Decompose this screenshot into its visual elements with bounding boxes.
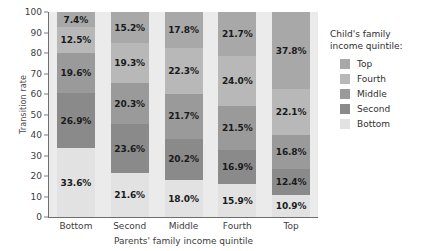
bar-segment-second: 12.4%: [272, 169, 310, 194]
y-axis-tick-label: 60: [20, 89, 42, 99]
legend-label: Bottom: [357, 119, 390, 129]
segment-value-label: 22.3%: [168, 66, 199, 76]
legend-swatch-middle: [340, 89, 350, 99]
y-axis-tick-label: 100: [20, 7, 42, 17]
y-axis-tick-label: 20: [20, 171, 42, 181]
segment-value-label: 19.3%: [114, 58, 145, 68]
y-axis-tick-label: 70: [20, 69, 42, 79]
bar-segment-bottom: 33.6%: [57, 148, 95, 217]
y-axis: 0102030405060708090100: [22, 12, 48, 217]
bar-segment-second: 26.9%: [57, 93, 95, 148]
segment-value-label: 21.7%: [168, 111, 199, 121]
plot-area: 7.4%12.5%19.6%26.9%33.6%15.2%19.3%20.3%2…: [49, 12, 318, 217]
bar-top: 37.8%22.1%16.8%12.4%10.9%: [272, 12, 310, 217]
segment-value-label: 10.9%: [276, 201, 307, 211]
y-axis-tick-label: 40: [20, 130, 42, 140]
legend-label: Top: [357, 59, 372, 69]
bar-segment-middle: 16.8%: [272, 135, 310, 169]
bar-segment-fourth: 19.3%: [111, 43, 149, 83]
bar-segment-bottom: 21.6%: [111, 173, 149, 217]
x-axis-tick-label-fourth: Fourth: [223, 221, 252, 231]
bar-segment-fourth: 12.5%: [57, 27, 95, 53]
legend-item-fourth: Fourth: [330, 74, 420, 84]
bar-segment-middle: 21.5%: [218, 106, 256, 150]
segment-value-label: 21.5%: [222, 123, 253, 133]
segment-value-label: 17.8%: [168, 25, 199, 35]
segment-value-label: 23.6%: [114, 144, 145, 154]
x-axis-line: [48, 217, 318, 218]
bar-fourth: 21.7%24.0%21.5%16.9%15.9%: [218, 12, 256, 217]
segment-value-label: 20.2%: [168, 154, 199, 164]
x-axis-title: Parents' family income quintile: [49, 236, 318, 246]
x-axis-tick-label-second: Second: [113, 221, 146, 231]
y-axis-tick-label: 10: [20, 192, 42, 202]
legend-item-second: Second: [330, 104, 420, 114]
legend-label: Middle: [357, 89, 387, 99]
segment-value-label: 24.0%: [222, 76, 253, 86]
y-axis-tick-label: 30: [20, 151, 42, 161]
legend-item-top: Top: [330, 59, 420, 69]
bar-segment-top: 15.2%: [111, 12, 149, 43]
legend-item-bottom: Bottom: [330, 119, 420, 129]
segment-value-label: 15.9%: [222, 196, 253, 206]
bar-segment-top: 7.4%: [57, 12, 95, 27]
segment-value-label: 7.4%: [64, 15, 89, 25]
legend-swatch-bottom: [340, 119, 350, 129]
segment-value-label: 12.5%: [61, 35, 92, 45]
bar-segment-middle: 19.6%: [57, 53, 95, 93]
x-axis-tick-labels: BottomSecondMiddleFourthTop: [49, 221, 318, 235]
legend-swatch-fourth: [340, 74, 350, 84]
x-axis-tick-label-top: Top: [284, 221, 299, 231]
segment-value-label: 21.7%: [222, 29, 253, 39]
segment-value-label: 16.9%: [222, 162, 253, 172]
segment-value-label: 16.8%: [276, 147, 307, 157]
bar-segment-fourth: 22.1%: [272, 89, 310, 134]
bar-segment-second: 20.2%: [165, 139, 203, 180]
segment-value-label: 19.6%: [61, 68, 92, 78]
segment-value-label: 18.0%: [168, 194, 199, 204]
bar-segment-fourth: 24.0%: [218, 56, 256, 105]
bar-segment-top: 17.8%: [165, 12, 203, 48]
legend-title-line-2: income quintile:: [330, 40, 420, 52]
y-axis-tick-label: 0: [20, 212, 42, 222]
y-axis-tick-label: 90: [20, 28, 42, 38]
bar-segment-bottom: 10.9%: [272, 195, 310, 217]
segment-value-label: 26.9%: [61, 116, 92, 126]
segment-value-label: 20.3%: [114, 99, 145, 109]
stacked-bar-chart: Transition rate 0102030405060708090100 7…: [0, 0, 423, 251]
legend-title: Child's family income quintile:: [330, 28, 420, 52]
x-axis-tick-label-middle: Middle: [169, 221, 199, 231]
legend-item-middle: Middle: [330, 89, 420, 99]
bar-segment-second: 23.6%: [111, 124, 149, 172]
legend: Child's family income quintile: TopFourt…: [330, 28, 420, 134]
bar-segment-bottom: 15.9%: [218, 184, 256, 217]
segment-value-label: 37.8%: [276, 46, 307, 56]
bar-segment-middle: 20.3%: [111, 83, 149, 125]
legend-label: Second: [357, 104, 390, 114]
bar-segment-top: 21.7%: [218, 12, 256, 56]
bar-segment-top: 37.8%: [272, 12, 310, 89]
x-axis-tick-label-bottom: Bottom: [59, 221, 92, 231]
bar-segment-middle: 21.7%: [165, 94, 203, 138]
segment-value-label: 12.4%: [276, 177, 307, 187]
bar-middle: 17.8%22.3%21.7%20.2%18.0%: [165, 12, 203, 217]
legend-title-line-1: Child's family: [330, 28, 420, 40]
segment-value-label: 33.6%: [61, 178, 92, 188]
bar-bottom: 7.4%12.5%19.6%26.9%33.6%: [57, 12, 95, 217]
legend-swatch-second: [340, 104, 350, 114]
segment-value-label: 15.2%: [114, 23, 145, 33]
legend-swatch-top: [340, 59, 350, 69]
segment-value-label: 21.6%: [114, 190, 145, 200]
bar-segment-fourth: 22.3%: [165, 48, 203, 94]
bar-segment-bottom: 18.0%: [165, 180, 203, 217]
bar-segment-second: 16.9%: [218, 150, 256, 185]
bar-second: 15.2%19.3%20.3%23.6%21.6%: [111, 12, 149, 217]
y-axis-tick-label: 80: [20, 48, 42, 58]
legend-items: TopFourthMiddleSecondBottom: [330, 59, 420, 129]
segment-value-label: 22.1%: [276, 107, 307, 117]
legend-label: Fourth: [357, 74, 386, 84]
y-axis-tick-label: 50: [20, 110, 42, 120]
